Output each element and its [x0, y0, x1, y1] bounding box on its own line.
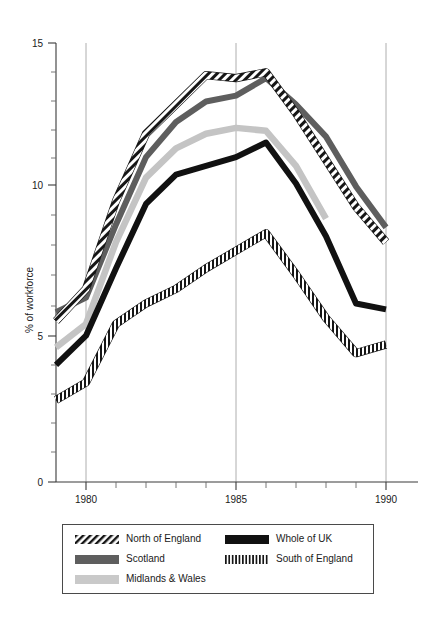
- solid-darkgray-swatch-icon: [75, 555, 119, 564]
- legend-label: Whole of UK: [276, 534, 332, 544]
- vertical-hatch-swatch-icon: [225, 555, 269, 564]
- data-series-layer: [56, 72, 386, 400]
- legend-label: South of England: [276, 554, 353, 564]
- chart-legend: North of England Whole of UK Scotland So…: [62, 524, 374, 594]
- x-tick-labels: 1980 1985 1990: [75, 494, 398, 505]
- x-tick-label: 1990: [375, 494, 398, 505]
- diagonal-hatch-swatch-icon: [75, 535, 119, 544]
- legend-label: North of England: [126, 534, 201, 544]
- y-tick-labels: 15 10 5 0: [32, 38, 44, 488]
- solid-lightgray-swatch-icon: [75, 575, 119, 584]
- x-tick-label: 1980: [75, 494, 98, 505]
- y-tick-label: 0: [37, 477, 43, 488]
- y-tick-label: 5: [37, 331, 43, 342]
- series-line-outline: [56, 72, 386, 321]
- legend-item-north-of-england: North of England: [63, 534, 213, 544]
- x-tick-label: 1985: [225, 494, 248, 505]
- legend-item-whole-of-uk: Whole of UK: [213, 534, 375, 544]
- y-axis-title: % of workforce: [24, 266, 35, 333]
- line-chart-svg: 15 10 5 0 % of workforce: [0, 0, 434, 510]
- legend-label: Midlands & Wales: [126, 574, 206, 584]
- x-axis: [56, 482, 418, 490]
- solid-black-swatch-icon: [225, 535, 269, 544]
- y-tick-label: 10: [32, 180, 44, 191]
- chart-figure: 15 10 5 0 % of workforce: [0, 0, 434, 625]
- legend-item-scotland: Scotland: [63, 554, 213, 564]
- legend-item-south-of-england: South of England: [213, 554, 375, 564]
- y-axis: [48, 43, 56, 482]
- legend-item-midlands-and-wales: Midlands & Wales: [63, 574, 213, 584]
- series-line: [56, 72, 386, 321]
- legend-label: Scotland: [126, 554, 165, 564]
- plot-area: 15 10 5 0 % of workforce: [0, 0, 434, 510]
- y-tick-label: 15: [32, 38, 44, 49]
